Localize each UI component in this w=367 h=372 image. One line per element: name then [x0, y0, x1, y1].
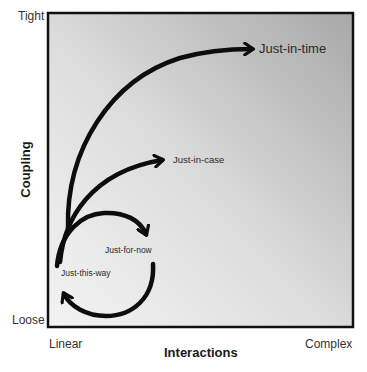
x-axis-title: Interactions	[164, 345, 238, 360]
just-for-now-label: Just-for-now	[105, 245, 152, 255]
just-this-way-label: Just-this-way	[61, 268, 111, 278]
plot-area	[48, 13, 353, 327]
y-axis-bottom-label: Loose	[12, 313, 45, 327]
just-in-case-label: Just-in-case	[173, 154, 224, 165]
y-axis-top-label: Tight	[18, 9, 44, 23]
x-axis-right-label: Complex	[305, 337, 352, 351]
x-axis-left-label: Linear	[49, 337, 82, 351]
y-axis-title: Coupling	[18, 139, 33, 201]
just-in-time-label: Just-in-time	[259, 41, 326, 56]
